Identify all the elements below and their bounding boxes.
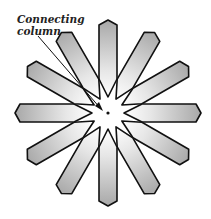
arm-4 [124, 104, 201, 122]
connecting-column-dot [106, 111, 109, 114]
arm-1 [99, 20, 117, 97]
arm-10 [15, 104, 92, 122]
connecting-column-label: Connecting column [17, 13, 85, 37]
label-line-2: column [17, 25, 85, 37]
arm-7 [99, 129, 117, 206]
label-line-1: Connecting [17, 13, 85, 25]
